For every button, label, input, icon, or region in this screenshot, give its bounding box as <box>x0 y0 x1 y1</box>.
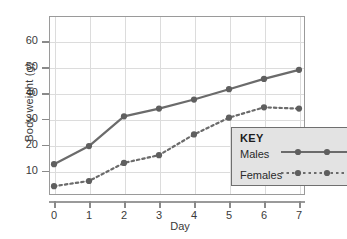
y-axis-tick-mark <box>42 119 49 121</box>
legend-label-females: Females <box>240 169 282 181</box>
x-axis-tick-mark <box>194 201 196 208</box>
y-axis-tick-mark <box>42 67 49 69</box>
y-axis-tick-label: 50 <box>12 60 38 72</box>
y-axis-tick-label: 20 <box>12 138 38 150</box>
y-axis-tick-label: 30 <box>12 112 38 124</box>
gridline-vertical <box>160 17 161 194</box>
x-axis-line <box>49 201 305 203</box>
y-axis-tick-mark <box>42 171 49 173</box>
y-axis-tick-mark <box>42 41 49 43</box>
gridline-vertical <box>90 17 91 194</box>
x-axis-tick-mark <box>89 201 91 208</box>
y-axis-tick-label: 40 <box>12 86 38 98</box>
legend-title: KEY <box>240 132 264 144</box>
x-axis-tick-mark <box>299 201 301 208</box>
x-axis-tick-mark <box>54 201 56 208</box>
x-axis-tick-mark <box>264 201 266 208</box>
x-axis-tick-mark <box>229 201 231 208</box>
y-axis-tick-label: 10 <box>12 164 38 176</box>
gridline-vertical <box>195 17 196 194</box>
legend-box: KEY Males Females <box>231 127 347 186</box>
gridline-vertical <box>125 17 126 194</box>
x-axis-tick-mark <box>124 201 126 208</box>
y-axis-tick-mark <box>42 145 49 147</box>
y-axis-tick-mark <box>42 93 49 95</box>
gridline-vertical <box>55 17 56 194</box>
legend-label-males: Males <box>240 148 269 160</box>
chart-screenshot: Body weight (g) 102030405060 01234567 Da… <box>0 0 347 239</box>
x-axis-title: Day <box>50 220 310 232</box>
y-axis-tick-labels: 102030405060 <box>12 0 38 239</box>
x-axis-tick-mark <box>159 201 161 208</box>
y-axis-tick-label: 60 <box>12 34 38 46</box>
